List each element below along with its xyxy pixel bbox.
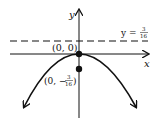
svg-text:y =: y = <box>120 28 137 38</box>
svg-text:16: 16 <box>140 33 147 39</box>
parabola-curve-right <box>79 54 136 107</box>
focus-label: (0, − 3 16 ) <box>44 74 77 87</box>
y-axis-label: y <box>68 9 75 20</box>
directrix-label: y = 3 16 <box>120 26 148 39</box>
svg-text:3: 3 <box>67 74 71 80</box>
focus-point <box>76 66 82 72</box>
vertex-label: (0, 0) <box>52 42 78 53</box>
svg-text:16: 16 <box>65 81 72 87</box>
parabola-diagram: y x (0, 0) y = 3 16 (0, − 3 16 ) <box>0 0 156 120</box>
svg-text:(0, −: (0, − <box>44 76 67 86</box>
svg-text:3: 3 <box>142 26 146 32</box>
x-axis-label: x <box>144 58 150 69</box>
svg-text:): ) <box>73 76 77 86</box>
